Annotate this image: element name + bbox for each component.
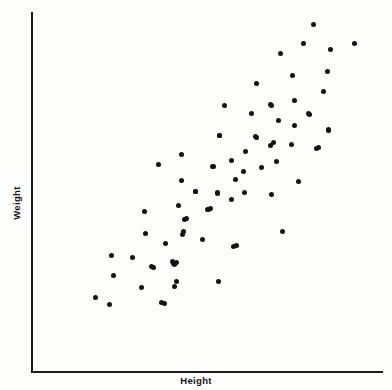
scatter-point: [156, 162, 161, 167]
scatter-point: [328, 47, 333, 52]
scatter-point: [184, 216, 189, 221]
scatter-point: [205, 207, 210, 212]
scatter-point: [306, 111, 311, 116]
scatter-point: [222, 103, 227, 108]
scatter-point: [316, 145, 321, 150]
scatter-point: [193, 189, 198, 194]
scatter-point: [290, 73, 295, 78]
scatter-point: [276, 118, 281, 123]
scatter-point: [296, 179, 301, 184]
scatter-point: [241, 169, 246, 174]
scatter-point: [172, 284, 177, 289]
scatter-point: [210, 164, 215, 169]
scatter-point: [254, 135, 259, 140]
x-axis-label: Height: [0, 375, 392, 386]
scatter-point: [216, 279, 221, 284]
scatter-point: [162, 301, 167, 306]
scatter-point: [151, 265, 156, 270]
scatter-point: [253, 134, 258, 139]
scatter-point: [174, 260, 179, 265]
scatter-point: [326, 127, 331, 132]
scatter-point: [179, 152, 184, 157]
scatter-point: [139, 285, 144, 290]
scatter-point: [217, 133, 222, 138]
scatter-point: [292, 123, 297, 128]
scatter-point: [107, 302, 112, 307]
scatter-point: [206, 207, 211, 212]
scatter-point: [180, 232, 185, 237]
scatter-point: [208, 206, 213, 211]
scatter-point: [274, 159, 279, 164]
scatter-point: [193, 189, 198, 194]
scatter-point: [292, 98, 297, 103]
scatter-point: [268, 102, 273, 107]
scatter-point: [233, 177, 238, 182]
scatter-point: [269, 103, 274, 108]
scatter-point: [311, 22, 316, 27]
scatter-plot-figure: Weight Height: [0, 0, 392, 390]
scatter-point: [217, 133, 222, 138]
scatter-point: [179, 178, 184, 183]
scatter-point: [176, 203, 181, 208]
scatter-point: [174, 279, 179, 284]
y-axis-line: [31, 12, 33, 373]
scatter-point: [170, 259, 175, 264]
scatter-point: [254, 81, 259, 86]
scatter-point: [172, 262, 177, 267]
y-axis-label: Weight: [11, 186, 22, 220]
scatter-point: [321, 89, 326, 94]
scatter-point: [269, 192, 274, 197]
scatter-point: [211, 164, 216, 169]
scatter-point: [215, 190, 220, 195]
scatter-point: [278, 51, 283, 56]
scatter-point: [215, 191, 220, 196]
scatter-point: [93, 295, 98, 300]
scatter-point: [231, 244, 236, 249]
scatter-point: [314, 146, 319, 151]
scatter-point: [229, 197, 234, 202]
scatter-point: [229, 158, 234, 163]
scatter-point: [280, 229, 285, 234]
scatter-point: [249, 111, 254, 116]
scatter-point: [142, 209, 147, 214]
scatter-point: [182, 217, 187, 222]
scatter-point: [234, 243, 239, 248]
scatter-point: [307, 112, 312, 117]
scatter-point: [242, 190, 247, 195]
scatter-point: [268, 143, 273, 148]
plot-area: [0, 0, 392, 390]
scatter-point: [149, 264, 154, 269]
scatter-point: [163, 241, 168, 246]
scatter-point: [171, 261, 176, 266]
scatter-point: [159, 300, 164, 305]
scatter-point: [200, 237, 205, 242]
scatter-point: [301, 41, 306, 46]
scatter-point: [289, 142, 294, 147]
x-axis-line: [31, 371, 383, 373]
scatter-point: [271, 140, 276, 145]
scatter-point: [259, 165, 264, 170]
scatter-point: [326, 128, 331, 133]
scatter-point: [109, 253, 114, 258]
scatter-point: [352, 41, 357, 46]
scatter-point: [111, 273, 116, 278]
scatter-point: [181, 229, 186, 234]
scatter-point: [143, 231, 148, 236]
scatter-point: [325, 69, 330, 74]
scatter-point: [130, 255, 135, 260]
scatter-point: [243, 149, 248, 154]
